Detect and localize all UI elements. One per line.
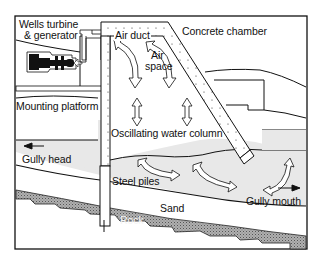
steel-pile xyxy=(100,166,110,226)
label-mounting-platform: Mounting platform xyxy=(16,101,98,112)
label-space: space xyxy=(145,61,173,72)
label-generator: & generator xyxy=(24,30,78,41)
label-steel-piles: Steel piles xyxy=(112,176,159,187)
owc-diagram: Wells turbine & generator Air duct Concr… xyxy=(0,0,316,260)
label-rock: Rock xyxy=(120,215,144,226)
chamber-front-wall xyxy=(101,36,110,166)
label-concrete-chamber: Concrete chamber xyxy=(182,26,267,37)
label-sand: Sand xyxy=(160,203,184,214)
label-oscillating-water-column: Oscillating water column xyxy=(111,128,222,139)
platform-deck xyxy=(16,86,102,91)
label-gully-head: Gully head xyxy=(22,154,71,165)
label-air-duct: Air duct xyxy=(114,30,151,41)
label-gully-mouth: Gully mouth xyxy=(246,196,301,207)
